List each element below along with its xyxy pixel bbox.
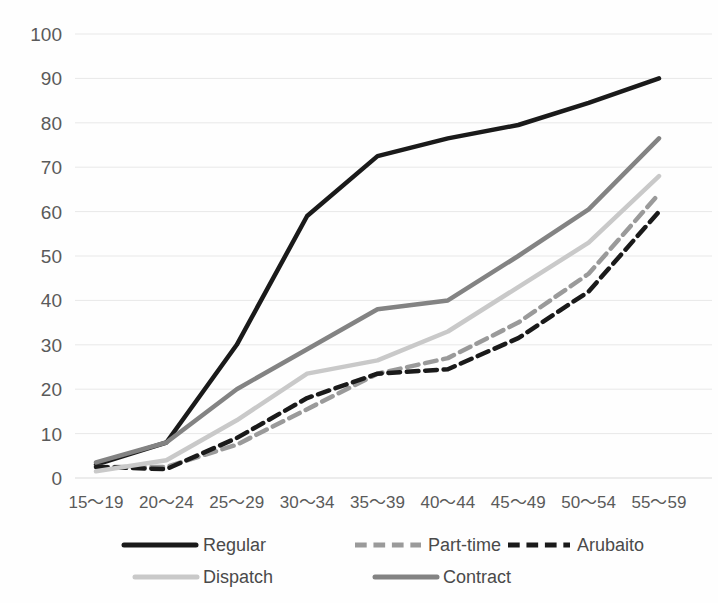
x-axis-tick-label: 15～19	[69, 493, 124, 512]
y-axis-tick-label: 10	[41, 424, 62, 445]
line-chart-figure: 0102030405060708090100 15～1920～2425～2930…	[0, 0, 718, 603]
x-axis-tick-label: 30～34	[280, 493, 335, 512]
y-axis-tick-label: 70	[41, 157, 62, 178]
x-axis-tick-label: 55～59	[632, 493, 687, 512]
y-axis-tick-label: 50	[41, 246, 62, 267]
y-axis-tick-label: 30	[41, 335, 62, 356]
legend-label-part-time: Part-time	[428, 535, 501, 555]
x-axis-tick-label: 45～49	[491, 493, 546, 512]
y-axis-tick-label: 40	[41, 290, 62, 311]
y-axis-tick-labels: 0102030405060708090100	[30, 24, 62, 489]
x-axis-tick-label: 20～24	[139, 493, 194, 512]
x-axis-tick-label: 25～29	[209, 493, 264, 512]
legend-label-dispatch: Dispatch	[203, 567, 273, 587]
legend-label-contract: Contract	[443, 567, 511, 587]
gridlines-group	[75, 34, 712, 478]
x-axis-tick-label: 50～54	[561, 493, 616, 512]
x-axis-tick-label: 40～44	[420, 493, 475, 512]
chart-legend: RegularPart-timeArubaitoDispatchContract	[124, 535, 644, 587]
y-axis-tick-label: 0	[51, 468, 62, 489]
y-axis-tick-label: 20	[41, 379, 62, 400]
plot-series-group	[96, 78, 659, 471]
series-line-regular	[96, 78, 659, 464]
x-axis-tick-label: 35～39	[350, 493, 405, 512]
legend-label-arubaito: Arubaito	[577, 535, 644, 555]
y-axis-tick-label: 90	[41, 68, 62, 89]
chart-canvas: 0102030405060708090100 15～1920～2425～2930…	[0, 0, 718, 603]
y-axis-tick-label: 100	[30, 24, 62, 45]
legend-label-regular: Regular	[203, 535, 266, 555]
y-axis-tick-label: 60	[41, 202, 62, 223]
y-axis-tick-label: 80	[41, 113, 62, 134]
x-axis-tick-labels: 15～1920～2425～2930～3435～3940～4445～4950～54…	[69, 493, 687, 512]
